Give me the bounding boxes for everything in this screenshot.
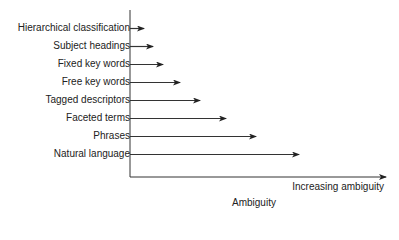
x-axis-title: Ambiguity	[232, 197, 276, 209]
row-label: Subject headings	[53, 40, 130, 52]
row-label: Faceted terms	[66, 112, 130, 124]
row-label: Phrases	[93, 130, 130, 142]
row-label: Free key words	[62, 76, 130, 88]
row-label: Tagged descriptors	[46, 94, 131, 106]
row-label: Hierarchical classification	[18, 22, 130, 34]
row-label: Fixed key words	[58, 58, 130, 70]
row-label: Natural language	[54, 148, 130, 160]
x-axis-annotation: Increasing ambiguity	[292, 181, 384, 193]
